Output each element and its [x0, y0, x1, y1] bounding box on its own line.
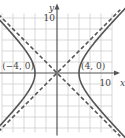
y-axis-label: y: [48, 3, 55, 13]
x-tick-label: 10: [100, 78, 112, 88]
hyperbola-plot: y 10 x 10 (−4, 0) (4, 0): [0, 0, 125, 138]
y-tick-label: 10: [44, 13, 56, 23]
y-axis-arrow-icon: [55, 4, 60, 10]
x-axis-label: x: [120, 78, 125, 88]
vertex-label-right: (4, 0): [81, 61, 105, 71]
x-axis-arrow-icon: [114, 71, 120, 76]
vertex-label-left: (−4, 0): [2, 61, 34, 71]
